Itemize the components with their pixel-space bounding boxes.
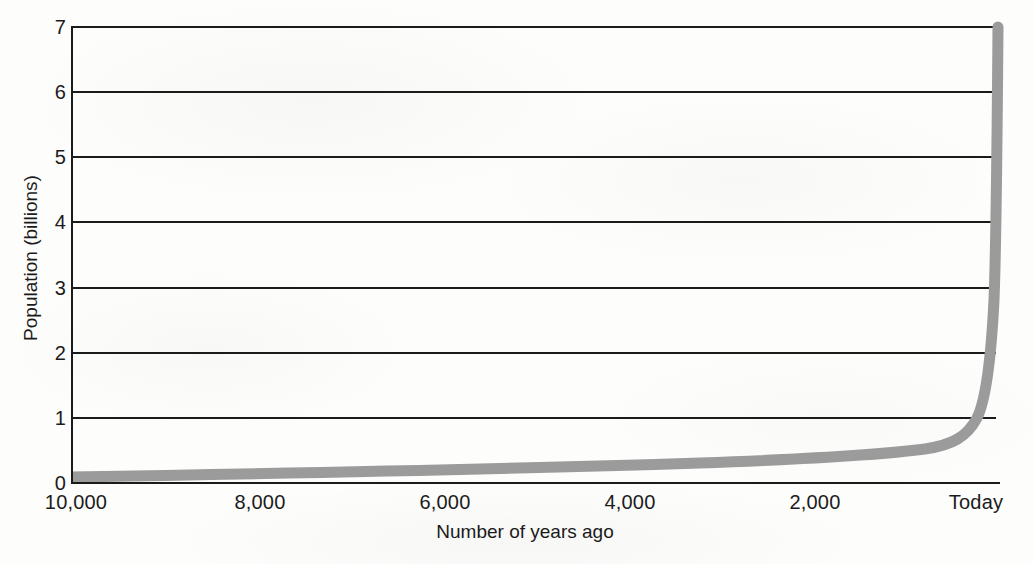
y-tick-4: 4 (32, 212, 66, 232)
x-tick-8000: 8,000 (204, 492, 316, 512)
population-growth-chart: Population (billions) 7 6 5 4 3 2 1 0 (0, 0, 1033, 564)
x-tick-2000: 2,000 (759, 492, 871, 512)
x-tick-6000: 6,000 (389, 492, 501, 512)
y-tick-5: 5 (32, 147, 66, 167)
x-axis-title: Number of years ago (415, 521, 635, 543)
plot-area (0, 0, 1033, 564)
x-tick-10000: 10,000 (16, 492, 136, 512)
y-tick-1: 1 (32, 408, 66, 428)
y-axis-title: Population (billions) (20, 143, 42, 373)
population-curve (71, 27, 998, 477)
y-tick-0: 0 (32, 473, 66, 493)
gridlines (71, 27, 996, 418)
x-tick-today: Today (930, 492, 1022, 512)
y-tick-3: 3 (32, 278, 66, 298)
y-tick-6: 6 (32, 82, 66, 102)
x-tick-4000: 4,000 (574, 492, 686, 512)
axis-lines (71, 26, 1000, 484)
y-tick-7: 7 (32, 17, 66, 37)
y-tick-2: 2 (32, 343, 66, 363)
